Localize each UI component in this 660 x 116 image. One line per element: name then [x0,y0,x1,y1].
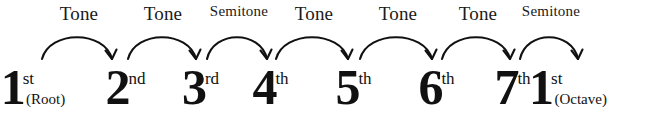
scale-degree-4: 4th [252,62,289,112]
interval-label-3: Semitone [210,4,268,19]
scale-degree-5: 5th [335,62,372,112]
interval-label-1: Tone [60,4,99,23]
degree-number: 6 [418,59,442,115]
scale-degree-2: 2nd [106,62,147,112]
degree-ordinal-suffix: nd [129,69,146,88]
scale-degree-7: 7th [494,62,531,112]
degree-ordinal-suffix: rd [205,69,219,88]
degree-ordinal-suffix: st [551,69,562,88]
degree-number: 5 [335,59,359,115]
degree-number: 2 [106,59,130,115]
degree-note-label: (Root) [26,91,65,107]
scale-interval-diagram: ToneToneSemitoneToneToneToneSemitone 1st… [0,0,660,116]
degree-number: 7 [494,59,518,115]
degree-number: 1 [529,59,553,115]
scale-degree-8: 1st(Octave) [529,62,617,112]
degree-note-label: (Octave) [554,91,606,107]
degree-ordinal-suffix: st [23,69,34,88]
scale-degree-6: 6th [418,62,455,112]
degree-ordinal-suffix: th [358,69,371,88]
degree-ordinal-suffix: th [441,69,454,88]
interval-label-6: Tone [459,4,498,23]
degree-number: 1 [1,59,25,115]
scale-degree-3: 3rd [182,62,220,112]
degree-number: 3 [182,59,206,115]
interval-label-4: Tone [295,4,334,23]
interval-label-7: Semitone [522,4,580,19]
scale-degree-1: 1st(Root) [1,62,76,112]
degree-ordinal-suffix: th [275,69,288,88]
interval-label-5: Tone [379,4,418,23]
degree-number: 4 [252,59,276,115]
interval-label-2: Tone [144,4,183,23]
